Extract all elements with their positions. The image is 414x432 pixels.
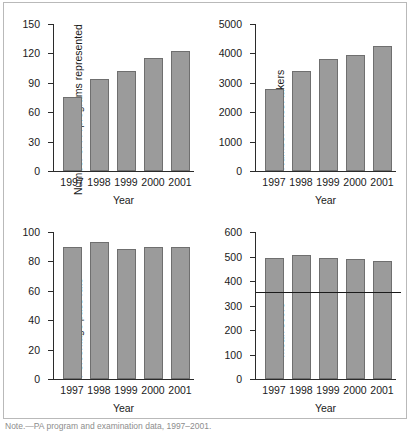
y-tick: 100 [48,232,53,233]
y-tick: 150 [48,24,53,25]
x-axis-line [255,379,396,380]
x-tick-labels: 1997 1998 1999 2000 2001 [256,384,397,398]
bar-1999[interactable] [117,249,136,379]
bar-2001[interactable] [373,46,392,172]
x-label-1998: 1998 [85,176,113,188]
x-label-2001: 2001 [368,384,396,396]
y-tick: 100 [250,355,255,356]
y-tick: 90 [48,83,53,84]
chart-mean-score: Mean score* 600 500 400 300 200 100 0 [205,210,407,418]
x-label-2001: 2001 [166,384,194,396]
x-label-2000: 2000 [139,384,167,396]
x-axis-title-test-takers: Year [255,194,396,206]
y-tick: 0 [250,379,255,380]
chart-grid: Number of PA programs represented 150 12… [3,2,407,419]
x-label-1999: 1999 [314,176,342,188]
bar-2000[interactable] [144,247,163,379]
bar-series-pa-programs [54,24,194,171]
bar-1998[interactable] [90,79,109,171]
x-label-1998: 1998 [287,384,315,396]
bar-1998[interactable] [292,255,311,379]
y-tick: 40 [48,320,53,321]
bar-series-pass-rate [54,232,194,379]
x-label-2000: 2000 [341,176,369,188]
plot-area-pa-programs: Number of PA programs represented 150 12… [53,24,185,172]
y-tick: 0 [48,171,53,172]
figure-panel-grid: Number of PA programs represented 150 12… [0,0,414,432]
x-label-1997: 1997 [260,384,288,396]
x-label-1999: 1999 [112,384,140,396]
y-tick: 200 [250,330,255,331]
reference-line-350 [256,292,401,294]
x-label-1998: 1998 [85,384,113,396]
chart-pa-programs: Number of PA programs represented 150 12… [3,2,205,210]
x-label-1998: 1998 [287,176,315,188]
y-tick: 0 [250,171,255,172]
y-tick: 400 [250,281,255,282]
x-label-1999: 1999 [314,384,342,396]
bar-2000[interactable] [144,58,163,171]
chart-test-takers: Number of test takers 5000 4000 3000 200… [205,2,407,210]
x-tick-labels: 1997 1998 1999 2000 2001 [54,176,195,190]
x-label-1997: 1997 [260,176,288,188]
x-label-1999: 1999 [112,176,140,188]
bar-series-mean-score [256,232,396,379]
bar-1999[interactable] [117,71,136,171]
y-tick: 1000 [250,142,255,143]
y-tick: 0 [48,379,53,380]
plot-area-pass-rate: Percentage pass rate 100 80 60 40 20 0 [53,232,185,380]
y-tick: 80 [48,261,53,262]
y-tick: 60 [48,291,53,292]
y-tick: 120 [48,53,53,54]
y-tick: 3000 [250,83,255,84]
y-tick: 4000 [250,53,255,54]
bar-series-test-takers [256,24,396,171]
x-axis-title-pa-programs: Year [53,194,194,206]
bar-2001[interactable] [171,51,190,171]
bar-2000[interactable] [346,259,365,379]
x-label-2001: 2001 [368,176,396,188]
y-tick: 30 [48,142,53,143]
bar-1999[interactable] [319,258,338,379]
y-tick: 20 [48,350,53,351]
figure-caption: Note.—PA program and examination data, 1… [5,421,405,432]
bar-1998[interactable] [292,71,311,171]
bar-1998[interactable] [90,242,109,379]
bar-1997[interactable] [265,258,284,379]
x-label-1997: 1997 [58,176,86,188]
bar-1997[interactable] [63,247,82,379]
bar-1999[interactable] [319,59,338,171]
x-label-2000: 2000 [341,384,369,396]
y-tick: 5000 [250,24,255,25]
bar-1997[interactable] [63,97,82,172]
x-axis-line [255,171,396,172]
bar-2001[interactable] [171,247,190,379]
x-axis-line [53,379,194,380]
x-axis-line [53,171,194,172]
x-label-2000: 2000 [139,176,167,188]
plot-area-mean-score: Mean score* 600 500 400 300 200 100 0 [255,232,387,380]
bar-1997[interactable] [265,89,284,171]
y-tick: 60 [48,112,53,113]
x-tick-labels: 1997 1998 1999 2000 2001 [256,176,397,190]
x-label-1997: 1997 [58,384,86,396]
bar-2001[interactable] [373,261,392,379]
x-tick-labels: 1997 1998 1999 2000 2001 [54,384,195,398]
y-tick: 600 [250,232,255,233]
x-axis-title-mean-score: Year [255,402,396,414]
chart-pass-rate: Percentage pass rate 100 80 60 40 20 0 [3,210,205,418]
y-tick: 500 [250,257,255,258]
plot-area-test-takers: Number of test takers 5000 4000 3000 200… [255,24,387,172]
bar-2000[interactable] [346,55,365,171]
y-tick: 300 [250,306,255,307]
x-axis-title-pass-rate: Year [53,402,194,414]
y-tick: 2000 [250,112,255,113]
x-label-2001: 2001 [166,176,194,188]
